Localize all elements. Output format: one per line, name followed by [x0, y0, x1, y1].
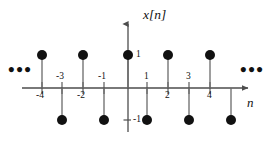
x-tick-label-3: 3	[186, 72, 191, 82]
x-tick-label-4: 4	[207, 91, 212, 101]
stem-plot-canvas	[0, 0, 273, 151]
stems-positive	[42, 56, 210, 88]
x-tick-label-minus-1: -1	[98, 72, 106, 82]
x-tick-label-1: 1	[144, 72, 149, 82]
right-ellipsis: •••	[240, 60, 264, 79]
x-tick-label-minus-4: -4	[36, 91, 44, 101]
sample-markers-positive	[37, 50, 215, 60]
x-axis-title: n	[247, 96, 254, 109]
x-tick-label-minus-2: -2	[77, 91, 85, 101]
sample-markers-negative	[57, 115, 236, 125]
x-tick-label-2: 2	[165, 91, 170, 101]
y-tick-label-positive-one: 1	[136, 50, 141, 60]
stems-negative	[62, 88, 231, 119]
signal-plot-figure: x[n] n 1 -1 -4 -3 -2 -1 1 2 3 4 ••• •••	[0, 0, 273, 151]
y-axis	[124, 24, 132, 132]
y-tick-label-negative-one: -1	[133, 115, 141, 125]
left-ellipsis: •••	[8, 60, 32, 79]
y-axis-title: x[n]	[143, 8, 166, 22]
x-tick-label-minus-3: -3	[56, 72, 64, 82]
